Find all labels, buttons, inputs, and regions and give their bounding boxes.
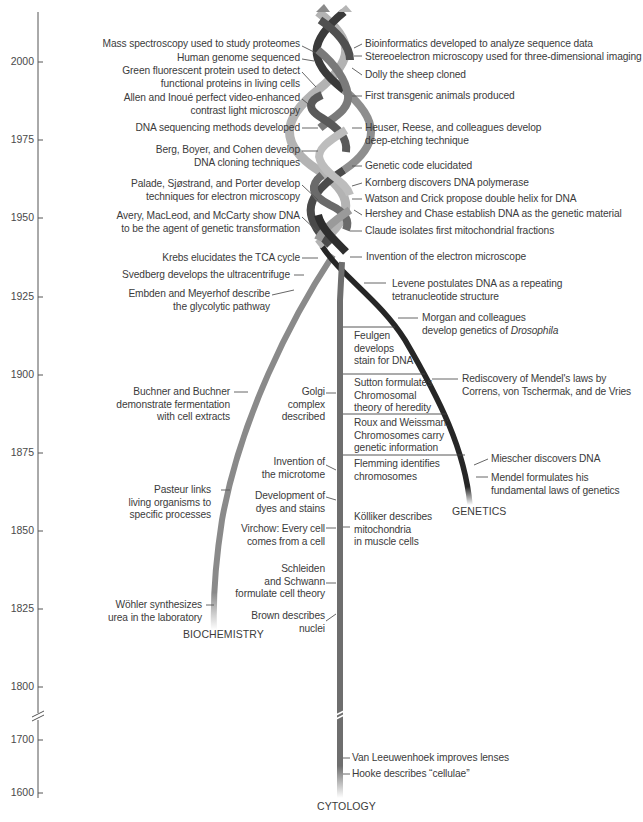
event-kolliker-mitochondria: Kölliker describesmitochondriain muscle … (354, 511, 432, 549)
event-bioinformatics: Bioinformatics developed to analyze sequ… (365, 38, 593, 51)
axis-tick-1700: 1700 (0, 733, 34, 745)
event-transgenic-animals: First transgenic animals produced (365, 90, 515, 103)
event-sutton-chromosomal-theory: Sutton formulatesChromosomaltheory of he… (354, 377, 432, 415)
event-dna-sequencing: DNA sequencing methods developed (136, 122, 300, 135)
event-cell-theory: Schleidenand Schwannformulate cell theor… (235, 563, 325, 601)
event-roux-weissman: Roux and Weissman:Chromosomes carrygenet… (354, 417, 449, 455)
event-van-leeuwenhoek: Van Leeuwenhoek improves lenses (352, 752, 509, 765)
event-dna-polymerase: Kornberg discovers DNA polymerase (365, 177, 529, 190)
event-mass-spectroscopy: Mass spectroscopy used to study proteome… (103, 38, 300, 51)
event-glycolytic-pathway: Embden and Meyerhof describethe glycolyt… (128, 288, 270, 313)
event-rediscovery-mendel: Rediscovery of Mendel's laws byCorrens, … (462, 373, 631, 398)
axis-tick-2000: 2000 (0, 55, 34, 67)
axis-tick-1925: 1925 (0, 290, 34, 302)
event-buchner-fermentation: Buchner and Buchnerdemonstrate fermentat… (116, 386, 230, 424)
timeline-diagram: 2000 1975 1950 1925 1900 1875 1850 1825 … (0, 0, 643, 822)
axis-tick-1825: 1825 (0, 602, 34, 614)
event-double-helix: Watson and Crick propose double helix fo… (365, 193, 576, 206)
event-dyes-stains: Development ofdyes and stains (255, 490, 325, 515)
event-deep-etching: Heuser, Reese, and colleagues developdee… (365, 122, 541, 147)
event-ultracentrifuge: Svedberg develops the ultracentrifuge (122, 269, 290, 282)
event-dna-cloning: Berg, Boyer, and Cohen developDNA clonin… (156, 144, 300, 169)
event-dolly-cloned: Dolly the sheep cloned (365, 69, 466, 82)
event-miescher-dna: Miescher discovers DNA (491, 453, 600, 466)
event-mitochondrial-fractions: Claude isolates first mitochondrial frac… (365, 225, 554, 238)
branch-label-cytology: CYTOLOGY (317, 800, 376, 812)
axis-tick-1950: 1950 (0, 211, 34, 223)
event-avery-macleod-mccarty: Avery, MacLeod, and McCarty show DNAto b… (117, 210, 300, 235)
event-levene-tetranucleotide: Levene postulates DNA as a repeatingtetr… (392, 278, 562, 303)
axis-tick-1975: 1975 (0, 133, 34, 145)
axis-tick-1850: 1850 (0, 524, 34, 536)
axis-tick-1900: 1900 (0, 368, 34, 380)
event-morgan-drosophila: Morgan and colleaguesdevelop genetics of… (422, 312, 558, 337)
axis-tick-1875: 1875 (0, 446, 34, 458)
event-gfp: Green fluorescent protein used to detect… (122, 65, 300, 90)
event-hershey-chase: Hershey and Chase establish DNA as the g… (365, 208, 622, 221)
branch-label-biochemistry: BIOCHEMISTRY (183, 628, 264, 640)
event-video-microscopy: Allen and Inoué perfect video-enhancedco… (124, 92, 300, 117)
axis-tick-1600: 1600 (0, 786, 34, 798)
event-stereoelectron-microscopy: Stereoelectron microscopy used for three… (365, 51, 642, 64)
event-microtome: Invention ofthe microtome (262, 456, 325, 481)
event-human-genome: Human genome sequenced (177, 52, 300, 65)
event-krebs-tca: Krebs elucidates the TCA cycle (162, 252, 300, 265)
event-electron-microscope: Invention of the electron microscope (366, 251, 526, 264)
event-pasteur: Pasteur linksliving organisms tospecific… (129, 484, 211, 522)
event-golgi-complex: Golgicomplexdescribed (282, 386, 325, 424)
event-feulgen-stain: Feulgendevelopsstain for DNA (354, 330, 413, 368)
event-genetic-code: Genetic code elucidated (365, 160, 472, 173)
event-wohler-urea: Wöhler synthesizesurea in the laboratory (108, 599, 202, 624)
event-hooke-cellulae: Hooke describes “cellulae” (352, 768, 469, 781)
axis-tick-1800: 1800 (0, 680, 34, 692)
branch-label-genetics: GENETICS (452, 505, 506, 517)
event-flemming-chromosomes: Flemming identifieschromosomes (354, 458, 440, 483)
event-electron-microscopy-techniques: Palade, Sjøstrand, and Porter developtec… (131, 178, 300, 203)
event-mendel-laws: Mendel formulates hisfundamental laws of… (491, 472, 620, 497)
event-virchow: Virchow: Every cellcomes from a cell (241, 523, 325, 548)
